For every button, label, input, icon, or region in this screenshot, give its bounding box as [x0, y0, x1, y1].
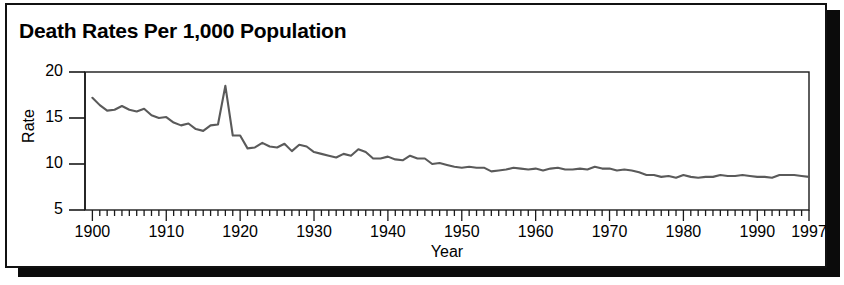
chart-panel: Death Rates Per 1,000 Population	[5, 3, 827, 268]
x-tick-label: 1960	[506, 223, 566, 241]
x-tick-label: 1920	[210, 223, 270, 241]
x-tick-label: 1910	[136, 223, 196, 241]
x-tick-label: 1980	[653, 223, 713, 241]
x-tick-label: 1970	[580, 223, 640, 241]
y-axis-title: Rate	[20, 96, 38, 156]
y-tick-label: 10	[23, 154, 63, 172]
x-axis-title: Year	[85, 243, 809, 261]
y-tick-label: 20	[23, 62, 63, 80]
x-axis-ticks	[92, 210, 809, 221]
x-tick-label: 1930	[284, 223, 344, 241]
x-tick-label: 1950	[432, 223, 492, 241]
x-tick-label: 1900	[62, 223, 122, 241]
y-axis-ticks	[69, 72, 85, 210]
x-tick-label: 1997	[779, 223, 839, 241]
figure-root: Death Rates Per 1,000 Population	[0, 0, 844, 285]
y-tick-label: 5	[23, 200, 63, 218]
y-tick-label: 15	[23, 108, 63, 126]
plot-frame	[85, 72, 809, 210]
plot-area: Rate Year 5101520 1900191019201930194019…	[7, 5, 829, 270]
data-series-line	[92, 86, 809, 178]
x-tick-label: 1940	[358, 223, 418, 241]
